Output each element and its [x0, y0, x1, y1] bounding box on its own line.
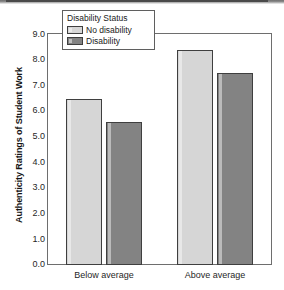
bar-above-average-disability: [217, 73, 253, 265]
bar-highlight: [179, 51, 182, 264]
x-axis-label-above-average: Above average: [185, 270, 246, 280]
x-axis-label-below-average: Below average: [74, 270, 134, 280]
y-tick-label-0: 0.0: [0, 259, 45, 269]
legend-swatch-highlight: [69, 39, 72, 43]
bar-chart-figure: Authenticity Ratings of Student Work 9.0…: [0, 0, 284, 290]
bar-highlight: [68, 100, 71, 264]
legend-swatch-highlight: [69, 28, 72, 32]
legend-label-no-disability: No disability: [86, 25, 132, 35]
y-tick-label-4: 4.0: [0, 157, 45, 167]
y-tick-label-1: 1.0: [0, 234, 45, 244]
legend-title: Disability Status: [67, 13, 150, 23]
legend-item-no-disability: No disability: [67, 25, 150, 35]
y-tick-label-5: 5.0: [0, 131, 45, 141]
y-axis-title: Authenticity Ratings of Student Work: [14, 30, 24, 260]
y-tick-label-9: 9.0: [0, 29, 45, 39]
y-tick-label-8: 8.0: [0, 54, 45, 64]
y-tick-label-7: 7.0: [0, 80, 45, 90]
bar-highlight: [219, 74, 222, 264]
bar-highlight: [108, 123, 111, 264]
bars-layer: [48, 34, 271, 265]
y-tick-label-6: 6.0: [0, 105, 45, 115]
bar-above-average-no-disability: [177, 50, 213, 265]
legend: Disability Status No disability Disabili…: [62, 10, 155, 50]
legend-item-disability: Disability: [67, 36, 150, 46]
bar-below-average-no-disability: [66, 99, 102, 265]
legend-swatch-no-disability: [67, 26, 83, 34]
legend-label-disability: Disability: [86, 36, 120, 46]
y-tick-label-2: 2.0: [0, 208, 45, 218]
scan-edge-artifact-dark: [6, 0, 268, 2]
bar-below-average-disability: [106, 122, 142, 265]
legend-swatch-disability: [67, 37, 83, 45]
y-tick-label-3: 3.0: [0, 182, 45, 192]
